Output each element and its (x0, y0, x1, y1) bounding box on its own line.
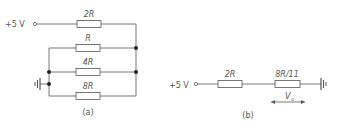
resistor-label-8r-11: 8R/11 (275, 70, 299, 79)
caption-b: (b) (242, 111, 253, 120)
diagram-b (194, 78, 326, 104)
terminal-icon (194, 82, 197, 85)
caption-a: (a) (82, 108, 93, 117)
resistor-label-2r-b: 2R (225, 70, 236, 79)
supply-label-a: +5 V (5, 20, 25, 29)
junction-dot (47, 70, 51, 74)
ground-icon (321, 78, 326, 90)
resistor-label-2r: 2R (84, 10, 95, 19)
supply-label-b: +5 V (169, 81, 189, 90)
output-voltage-subscript: o (291, 96, 294, 102)
junction-dot (47, 82, 51, 86)
resistor-4r (76, 69, 100, 76)
resistor-label-8r: 8R (83, 82, 94, 91)
circuit-diagrams: +5 V 2R R 4R 8R (a) +5 V 2R 8R/11 V o (b… (0, 0, 340, 127)
resistor-2r-b (218, 81, 242, 88)
resistor-label-r: R (85, 34, 91, 43)
terminal-icon (33, 22, 36, 25)
resistor-2r (77, 21, 101, 28)
junction-dot (134, 70, 138, 74)
resistor-8r (76, 93, 100, 100)
ground-icon (35, 78, 49, 90)
resistor-r (76, 45, 100, 52)
diagram-b-labels: +5 V 2R 8R/11 V o (b) (169, 70, 299, 120)
resistor-label-4r: 4R (83, 58, 94, 67)
resistor-8r-11 (275, 81, 300, 88)
junction-dot (134, 46, 138, 50)
